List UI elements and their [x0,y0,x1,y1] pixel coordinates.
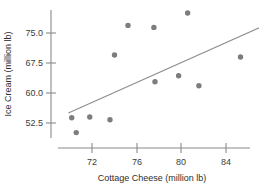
data-point [176,73,181,78]
x-tick-label-76: 76 [132,157,142,167]
regression-line [68,27,259,113]
data-point [185,10,190,15]
chart-canvas: 75.0 67.5 60.0 52.5 Ice Cream (million l… [0,0,259,189]
x-tick-label-80: 80 [176,157,186,167]
x-tick-label-72: 72 [87,157,97,167]
data-point [125,23,130,28]
data-point [69,115,74,120]
y-tick-label-60: 60.0 [25,88,43,98]
data-point [107,117,112,122]
data-points-group [69,10,243,135]
x-axis-title: Cottage Cheese (million lb) [98,173,207,183]
data-point [238,54,243,59]
y-tick-label-52-5: 52.5 [25,118,43,128]
scatter-plot-screenshot: 75.0 67.5 60.0 52.5 Ice Cream (million l… [0,0,259,189]
data-point [152,79,157,84]
data-point [112,52,117,57]
data-point [87,114,92,119]
y-tick-label-67-5: 67.5 [25,58,43,68]
y-axis-group: 75.0 67.5 60.0 52.5 Ice Cream (million l… [3,10,56,138]
y-tick-label-75: 75.0 [25,28,43,38]
x-axis-group: 72 76 80 84 Cottage Cheese (million lb) [58,143,250,183]
x-tick-label-84: 84 [221,157,231,167]
data-point [151,25,156,30]
data-point [74,130,79,135]
data-point [196,83,201,88]
y-axis-title: Ice Cream (million lb) [3,31,13,116]
